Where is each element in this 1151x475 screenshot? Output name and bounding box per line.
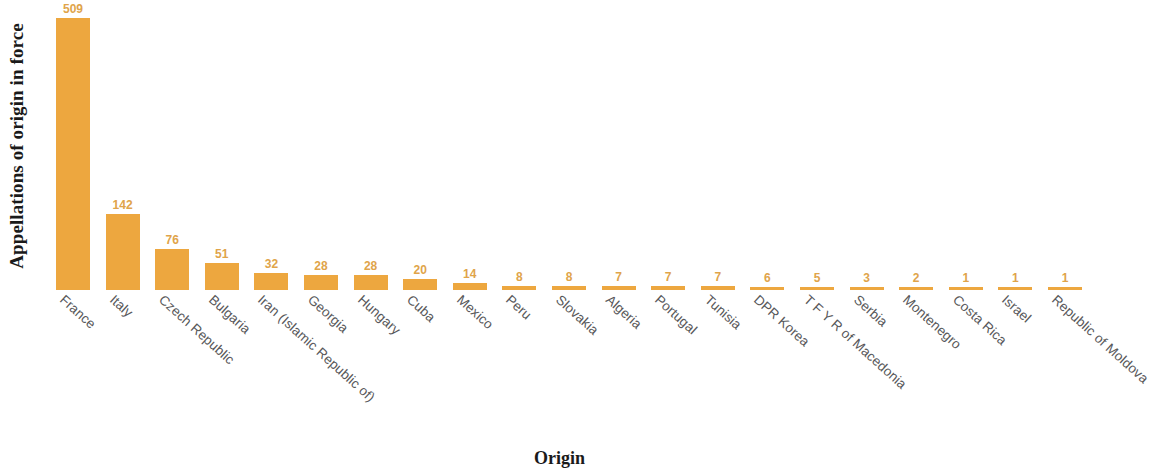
bar-value-label: 5	[814, 272, 821, 285]
bar-rect	[254, 273, 288, 290]
bar-value-label: 3	[863, 272, 870, 285]
bar-serbia[interactable]: 3	[850, 0, 884, 290]
category-label: Portugal	[652, 292, 700, 337]
bar-tunisia[interactable]: 7	[701, 0, 735, 290]
bar-cuba[interactable]: 20	[403, 0, 437, 290]
bar-mexico[interactable]: 14	[453, 0, 487, 290]
bar-value-label: 7	[714, 271, 721, 284]
bar-rect	[502, 286, 536, 290]
bar-value-label: 2	[913, 272, 920, 285]
bar-israel[interactable]: 1	[998, 0, 1032, 290]
bar-rect	[552, 286, 586, 290]
bar-hungary[interactable]: 28	[354, 0, 388, 290]
bar-peru[interactable]: 8	[502, 0, 536, 290]
bar-algeria[interactable]: 7	[602, 0, 636, 290]
category-label: Cuba	[404, 292, 438, 325]
bar-rect	[304, 275, 338, 290]
bar-value-label: 28	[364, 260, 377, 273]
bar-rect	[850, 287, 884, 290]
bar-value-label: 20	[414, 264, 427, 277]
bar-value-label: 6	[764, 272, 771, 285]
bar-value-label: 8	[566, 271, 573, 284]
bar-costa-rica[interactable]: 1	[949, 0, 983, 290]
bar-czech-republic[interactable]: 76	[155, 0, 189, 290]
bar-rect	[750, 287, 784, 290]
category-label: Tunisia	[702, 292, 745, 332]
bar-republic-of-moldova[interactable]: 1	[1048, 0, 1082, 290]
y-axis-title: Appellations of origin in force	[0, 0, 34, 292]
bar-value-label: 1	[962, 272, 969, 285]
category-label: Bulgaria	[206, 292, 253, 337]
bar-rect	[354, 275, 388, 290]
bar-value-label: 28	[314, 260, 327, 273]
bar-rect	[701, 286, 735, 290]
bar-t-f-y-r-of-macedonia[interactable]: 5	[800, 0, 834, 290]
bar-value-label: 8	[516, 271, 523, 284]
bar-value-label: 1	[1012, 272, 1019, 285]
category-label: Slovakia	[553, 292, 602, 338]
bar-italy[interactable]: 142	[106, 0, 140, 290]
category-label: France	[57, 292, 99, 332]
category-label: Algeria	[603, 292, 645, 332]
category-label: Mexico	[454, 292, 496, 332]
bar-value-label: 1	[1062, 272, 1069, 285]
bar-rect	[998, 287, 1032, 290]
bar-rect	[106, 214, 140, 290]
plot-area: 50914276513228282014887776532111	[40, 0, 1119, 290]
category-label: Israel	[999, 292, 1034, 326]
category-label: Georgia	[305, 292, 351, 336]
bar-rect	[403, 279, 437, 290]
bar-rect	[899, 287, 933, 290]
bar-iran-islamic-republic-of[interactable]: 32	[254, 0, 288, 290]
category-label: Hungary	[355, 292, 403, 338]
bar-rect	[949, 287, 983, 290]
bar-bulgaria[interactable]: 51	[205, 0, 239, 290]
bar-rect	[602, 286, 636, 290]
bar-rect	[155, 249, 189, 290]
bar-rect	[205, 263, 239, 290]
category-axis-labels: FranceItalyCzech RepublicBulgariaIran (I…	[40, 292, 1119, 442]
bar-value-label: 32	[265, 258, 278, 271]
bar-rect	[651, 286, 685, 290]
bar-rect	[453, 283, 487, 290]
x-axis-title: Origin	[0, 448, 1119, 469]
bar-rect	[1048, 287, 1082, 290]
bar-georgia[interactable]: 28	[304, 0, 338, 290]
bar-value-label: 7	[615, 271, 622, 284]
bar-value-label: 14	[463, 268, 476, 281]
bar-value-label: 142	[113, 199, 133, 212]
bar-portugal[interactable]: 7	[651, 0, 685, 290]
bar-slovakia[interactable]: 8	[552, 0, 586, 290]
bar-rect	[56, 18, 90, 290]
category-label: Serbia	[851, 292, 890, 330]
category-label: Italy	[107, 292, 136, 320]
category-label: Peru	[503, 292, 535, 322]
bar-montenegro[interactable]: 2	[899, 0, 933, 290]
bar-value-label: 509	[63, 3, 83, 16]
bar-dpr-korea[interactable]: 6	[750, 0, 784, 290]
bar-value-label: 76	[166, 234, 179, 247]
bar-france[interactable]: 509	[56, 0, 90, 290]
category-label: Republic of Moldova	[1049, 292, 1151, 386]
bar-value-label: 51	[215, 248, 228, 261]
bar-value-label: 7	[665, 271, 672, 284]
bar-rect	[800, 287, 834, 290]
